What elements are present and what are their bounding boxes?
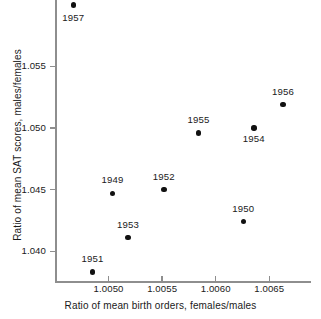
x-tick-label: 1.0055 xyxy=(132,284,192,294)
data-point-label: 1953 xyxy=(113,220,143,230)
data-point-label: 1954 xyxy=(239,134,269,144)
data-point-label: 1952 xyxy=(149,172,179,182)
data-point xyxy=(125,235,130,240)
data-point xyxy=(196,130,201,135)
scatter-plot-figure: 1.0401.0451.0501.055 1.00501.00551.00601… xyxy=(0,0,321,319)
data-point xyxy=(110,191,115,196)
data-point-label: 1956 xyxy=(268,87,298,97)
x-axis-title: Ratio of mean birth orders, females/male… xyxy=(0,300,321,312)
plot-area: 194919501951195219531954195519561957 xyxy=(55,0,310,282)
data-point xyxy=(90,269,95,274)
x-tick-label: 1.0050 xyxy=(79,284,139,294)
data-point-label: 1957 xyxy=(58,13,88,23)
x-tick-label: 1.0065 xyxy=(239,284,299,294)
y-axis-title: Ratio of mean SAT scores, males/females xyxy=(12,30,24,260)
x-tick-label: 1.0060 xyxy=(186,284,246,294)
data-point-label: 1955 xyxy=(184,115,214,125)
data-point xyxy=(251,125,256,130)
data-point-label: 1951 xyxy=(78,254,108,264)
data-point xyxy=(71,2,76,7)
data-point xyxy=(280,102,285,107)
data-point-label: 1950 xyxy=(228,204,258,214)
data-point xyxy=(241,219,246,224)
data-point-label: 1949 xyxy=(98,175,128,185)
data-point xyxy=(161,187,166,192)
